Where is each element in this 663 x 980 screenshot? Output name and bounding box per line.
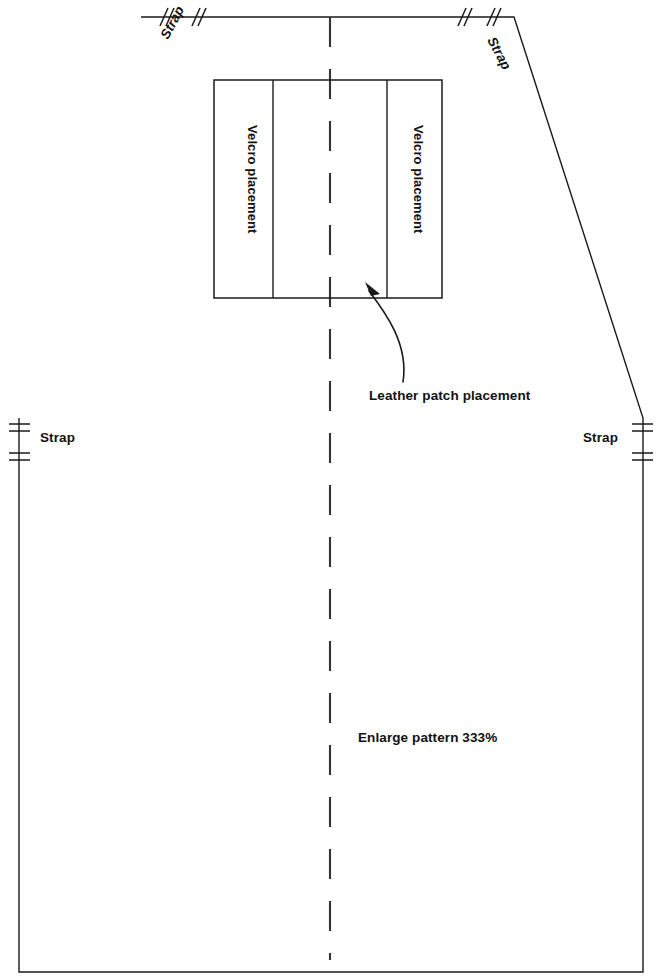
- enlarge-pattern-note: Enlarge pattern 333%: [358, 730, 497, 745]
- strap-label-right: Strap: [583, 430, 618, 445]
- leather-patch-label: Leather patch placement: [369, 388, 531, 403]
- strap-label-top-right: Strap: [484, 34, 514, 72]
- strap-label-left: Strap: [40, 430, 75, 445]
- velcro-label-left: Velcro placement: [245, 125, 260, 234]
- pattern-drawing: Strap Strap Velcro placement Velcro plac…: [0, 0, 663, 980]
- leader-arrow-head-icon: [365, 282, 380, 296]
- leader-arrow-icon: [369, 291, 404, 382]
- velcro-label-right: Velcro placement: [411, 125, 426, 234]
- pattern-sheet: Strap Strap Velcro placement Velcro plac…: [0, 0, 663, 980]
